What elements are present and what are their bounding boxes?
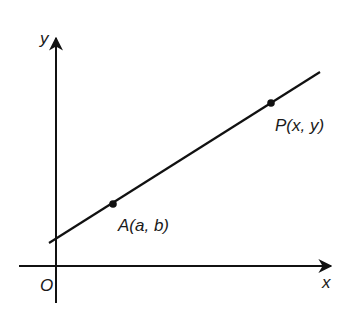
point-P (267, 99, 275, 107)
coordinate-diagram: y x O A(a, b) P(x, y) (0, 0, 353, 320)
origin-label: O (40, 276, 53, 295)
point-A-label: A(a, b) (117, 216, 169, 235)
point-A (109, 200, 117, 208)
line-AP (49, 72, 320, 243)
point-P-label: P(x, y) (275, 116, 324, 135)
y-axis-label: y (39, 29, 50, 48)
x-axis-label: x (321, 273, 331, 292)
